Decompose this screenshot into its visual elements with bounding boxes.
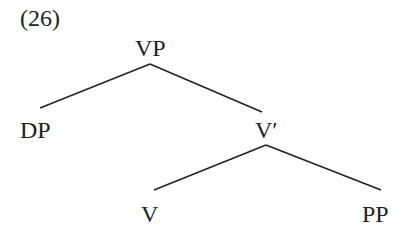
node-vp: VP (135, 36, 166, 60)
node-pp: PP (362, 202, 389, 226)
node-dp: DP (20, 118, 51, 142)
node-vbar: V′ (255, 118, 278, 142)
tree-branches (0, 0, 412, 234)
example-number: (26) (20, 6, 60, 30)
node-v: V (141, 202, 158, 226)
branch-vbar-pp (266, 145, 381, 190)
branch-vbar-v (154, 145, 266, 190)
branch-vp-dp (40, 64, 150, 108)
branch-vp-vbar (150, 64, 262, 112)
